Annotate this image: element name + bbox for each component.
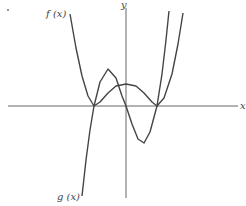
- g-label: g (x): [57, 192, 80, 202]
- corner-mark: [7, 9, 9, 11]
- x-axis-label: x: [240, 101, 246, 111]
- y-axis-label: y: [121, 0, 127, 10]
- function-graph: f (x) g (x) y x: [0, 0, 246, 206]
- graph-canvas: [0, 0, 246, 206]
- f-label: f (x): [46, 9, 66, 19]
